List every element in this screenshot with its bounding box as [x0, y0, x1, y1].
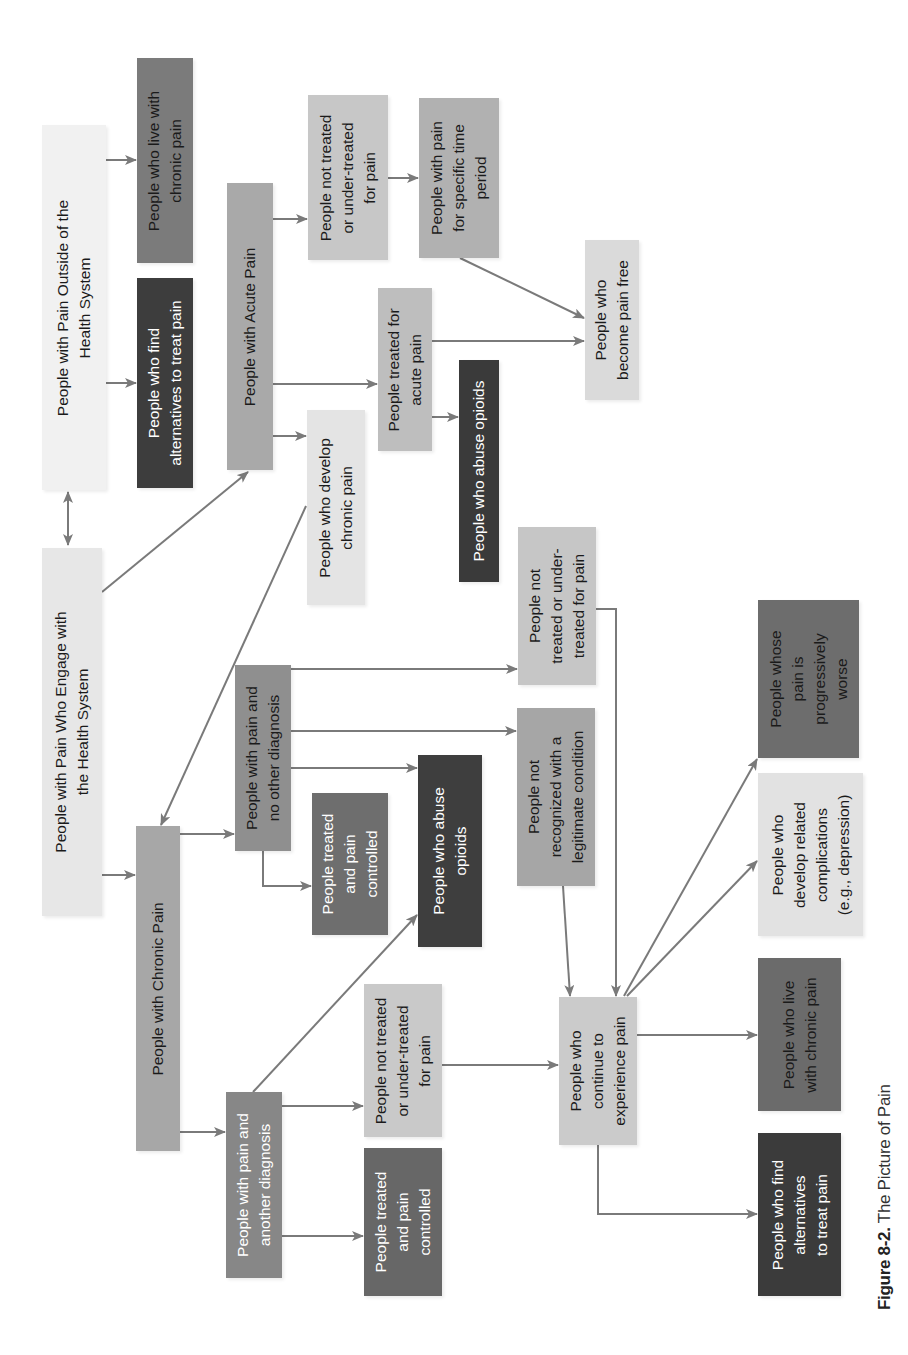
- node-label: People whose pain is progressively worse: [765, 630, 853, 727]
- node-nodx-opioids: People who abuse opioids: [418, 755, 482, 947]
- arrow-no-other-dx-to-nodx-controlled: [263, 851, 311, 886]
- arrow-continue-to-worse: [624, 759, 757, 996]
- node-label: People with pain for specific time perio…: [426, 121, 492, 235]
- node-label: People treated and pain controlled: [370, 1172, 436, 1273]
- node-develop-chronic: People who develop chronic pain: [307, 410, 365, 605]
- node-another-dx: People with pain and another diagnosis: [226, 1092, 282, 1278]
- node-not-recognized: People not recognized with a legitimate …: [517, 708, 595, 886]
- node-complications: People who develop related complications…: [758, 773, 863, 936]
- node-nodx-not-treated: People not treated or under- treated for…: [518, 527, 596, 685]
- node-label: People with Pain Outside of the Health S…: [52, 199, 96, 415]
- node-chronic: People with Chronic Pain: [136, 826, 180, 1151]
- arrow-engage-to-acute: [102, 472, 248, 592]
- node-engage: People with Pain Who Engage with the Hea…: [42, 548, 102, 916]
- node-label: People who live with chronic pain: [143, 90, 187, 230]
- node-acute-specific: People with pain for specific time perio…: [419, 98, 499, 258]
- node-label: People with pain and no other diagnosis: [241, 686, 285, 830]
- node-outside-live: People who live with chronic pain: [137, 58, 193, 263]
- node-label: People who abuse opioids: [468, 381, 490, 562]
- node-acute-not-treated: People not treated or under-treated for …: [308, 95, 388, 260]
- node-label: People who live with chronic pain: [778, 977, 822, 1092]
- node-pain-free: People who become pain free: [585, 240, 639, 400]
- arrow-nodx-not-treated-to-continue: [596, 609, 616, 996]
- node-label: People who develop related complications…: [767, 794, 855, 915]
- arrow-continue-to-find-alt: [598, 1145, 757, 1214]
- node-live-chronic: People who live with chronic pain: [758, 958, 841, 1111]
- node-label: People who abuse opioids: [428, 787, 472, 915]
- node-no-other-dx: People with pain and no other diagnosis: [235, 665, 291, 851]
- node-label: People with Acute Pain: [239, 247, 261, 406]
- node-label: People not treated or under- treated for…: [524, 548, 590, 663]
- node-acute: People with Acute Pain: [227, 183, 273, 470]
- node-continue: People who continue to experience pain: [559, 997, 637, 1145]
- node-outside: People with Pain Outside of the Health S…: [42, 125, 106, 490]
- node-label: People who find alternatives to treat pa…: [143, 300, 187, 465]
- node-acute-treated: People treated for acute pain: [378, 288, 432, 451]
- node-label: People who continue to experience pain: [565, 1016, 631, 1125]
- node-worse: People whose pain is progressively worse: [758, 600, 859, 758]
- node-label: People treated for acute pain: [383, 308, 427, 431]
- node-label: People who develop chronic pain: [314, 438, 358, 578]
- arrow-not-recognized-to-continue: [563, 886, 570, 996]
- diagram-canvas: People with Pain Outside of the Health S…: [0, 0, 908, 1355]
- node-acute-opioids: People who abuse opioids: [459, 360, 499, 582]
- node-label: People who find alternatives to treat pa…: [767, 1159, 833, 1269]
- figure-title: The Picture of Pain: [875, 1084, 894, 1223]
- node-label: People not treated or under-treated for …: [370, 997, 436, 1124]
- node-label: People not recognized with a legitimate …: [523, 731, 589, 864]
- node-label: People with Pain Who Engage with the Hea…: [50, 611, 94, 852]
- node-find-alt: People who find alternatives to treat pa…: [758, 1133, 841, 1296]
- node-label: People not treated or under-treated for …: [315, 114, 381, 241]
- node-label: People with Chronic Pain: [147, 902, 169, 1075]
- node-adx-controlled: People treated and pain controlled: [364, 1148, 442, 1296]
- node-label: People who become pain free: [590, 260, 634, 380]
- figure-number: Figure 8-2.: [875, 1227, 894, 1310]
- node-label: People with pain and another diagnosis: [232, 1113, 276, 1257]
- arrow-continue-to-complications: [627, 861, 757, 996]
- figure-caption: Figure 8-2. The Picture of Pain: [875, 1084, 895, 1310]
- node-outside-alt: People who find alternatives to treat pa…: [137, 278, 193, 488]
- node-adx-not-treated: People not treated or under-treated for …: [364, 984, 442, 1137]
- node-nodx-controlled: People treated and pain controlled: [312, 793, 388, 935]
- node-label: People treated and pain controlled: [317, 814, 383, 915]
- arrow-acute-specific-to-pain-free: [460, 258, 584, 318]
